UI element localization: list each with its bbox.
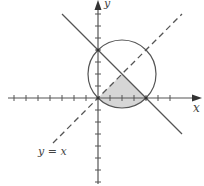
point-origin xyxy=(96,96,99,99)
y-axis-label: y xyxy=(103,0,111,10)
y-axis-arrow-icon xyxy=(95,0,102,10)
line-x-plus-y-eq-4 xyxy=(62,14,182,134)
point-4-0 xyxy=(144,96,147,99)
point-0-4 xyxy=(96,48,99,51)
diagram-canvas: y x y = x xyxy=(0,0,204,186)
y-eq-x-label: y = x xyxy=(37,145,67,158)
line-y-eq-x xyxy=(53,14,182,143)
x-axis-label: x xyxy=(193,101,200,115)
